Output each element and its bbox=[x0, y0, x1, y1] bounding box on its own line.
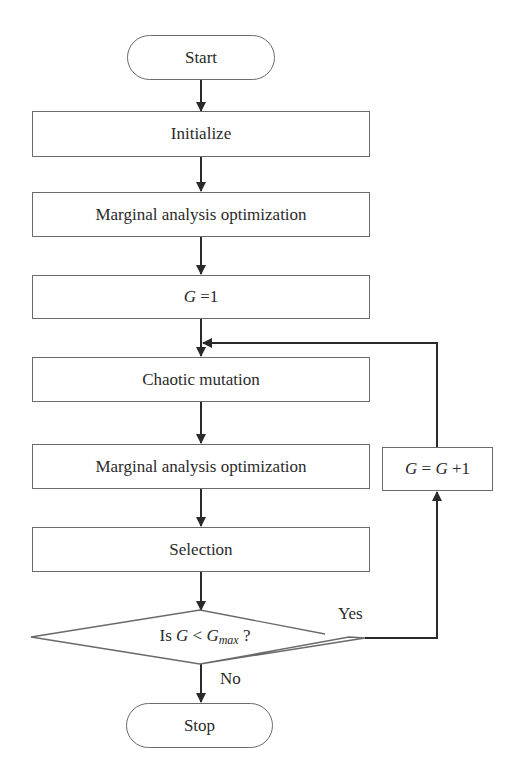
marginal-analysis-box-1: Marginal analysis optimization bbox=[32, 192, 370, 237]
selection-box: Selection bbox=[32, 527, 370, 572]
stop-terminator: Stop bbox=[126, 703, 273, 748]
flowchart-canvas: Start Initialize Marginal analysis optim… bbox=[0, 0, 518, 782]
stop-label: Stop bbox=[184, 716, 215, 736]
start-terminator: Start bbox=[127, 35, 275, 80]
increment-box: G = G +1 bbox=[382, 447, 493, 491]
increment-label: G = G +1 bbox=[405, 459, 470, 479]
g-init-label: G =1 bbox=[184, 287, 219, 307]
no-edge-label: No bbox=[220, 669, 241, 689]
arrow-yes-to-increment bbox=[365, 492, 437, 638]
chaotic-mutation-label: Chaotic mutation bbox=[142, 370, 260, 390]
marginal-analysis-label-2: Marginal analysis optimization bbox=[95, 457, 306, 477]
marginal-analysis-box-2: Marginal analysis optimization bbox=[32, 444, 370, 489]
chaotic-mutation-box: Chaotic mutation bbox=[32, 357, 370, 402]
marginal-analysis-label-1: Marginal analysis optimization bbox=[95, 205, 306, 225]
selection-label: Selection bbox=[169, 540, 232, 560]
decision-label: Is G < Gmax ? bbox=[140, 626, 270, 646]
initialize-box: Initialize bbox=[32, 111, 370, 157]
start-label: Start bbox=[185, 48, 217, 68]
g-init-box: G =1 bbox=[32, 275, 370, 319]
initialize-label: Initialize bbox=[171, 124, 231, 144]
yes-edge-label: Yes bbox=[338, 604, 363, 624]
